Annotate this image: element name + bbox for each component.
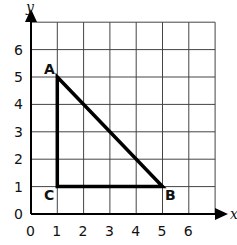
svg-text:0: 0 [14, 206, 23, 222]
svg-text:3: 3 [105, 223, 114, 239]
svg-text:5: 5 [14, 69, 23, 85]
svg-text:1: 1 [52, 223, 61, 239]
svg-text:0: 0 [26, 223, 35, 239]
svg-text:3: 3 [14, 124, 23, 140]
svg-text:4: 4 [131, 223, 140, 239]
svg-text:4: 4 [14, 96, 23, 112]
point-label-c: C [44, 187, 54, 203]
x-axis-arrow-icon [215, 208, 228, 220]
svg-text:1: 1 [14, 179, 23, 195]
svg-text:6: 6 [184, 223, 193, 239]
coordinate-grid: y x 0123456 0123456 A B C [0, 0, 237, 245]
svg-text:2: 2 [14, 151, 23, 167]
svg-text:2: 2 [79, 223, 88, 239]
point-label-a: A [44, 61, 55, 77]
svg-text:5: 5 [158, 223, 167, 239]
point-label-b: B [165, 187, 176, 203]
svg-text:6: 6 [14, 42, 23, 58]
x-tick-labels: 0123456 [26, 223, 193, 239]
y-tick-labels: 0123456 [14, 42, 23, 222]
y-axis-label: y [25, 0, 35, 15]
x-axis-label: x [230, 206, 237, 222]
